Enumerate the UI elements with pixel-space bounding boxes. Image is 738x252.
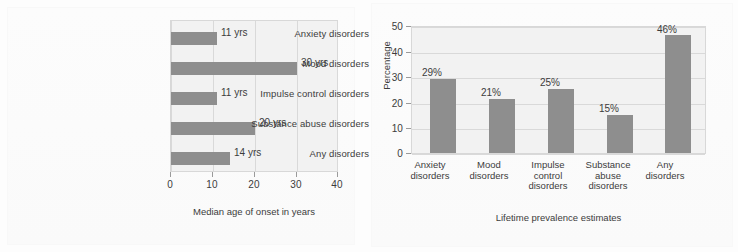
ytick-mark-10 [406, 128, 411, 129]
category-line-2: disorders [460, 171, 518, 182]
xtick-label-0: 0 [160, 179, 180, 190]
ytick-mark-20 [406, 103, 411, 104]
category-line-3: disorders [519, 181, 577, 192]
gridline-y-40 [412, 53, 705, 54]
ytick-mark-30 [406, 77, 411, 78]
xtick-mark-0 [170, 172, 171, 177]
category-label-substance-abuse-disorders: Substance abuse disorders [211, 118, 369, 129]
data-label-substance-abuse-disorders: 20 yrs [259, 117, 286, 128]
gridline-y-0 [412, 154, 705, 155]
category-label-mood-disorders: Mood disorders [211, 58, 369, 69]
bar-any-disorders[interactable] [665, 35, 691, 153]
xtick-mark-30 [296, 172, 297, 177]
category-line-1: Substance [577, 160, 639, 171]
data-label-impulse-control-disorders: 11 yrs [221, 87, 248, 98]
category-label-anxiety-disorders: Anxiety disorders [401, 160, 459, 181]
category-line-3: disorders [577, 181, 639, 192]
data-label-anxiety-disorders: 11 yrs [221, 27, 248, 38]
category-line-1: Mood [460, 160, 518, 171]
right-plot-area [411, 26, 706, 154]
category-line-1: Impulse [519, 160, 577, 171]
right-axis-caption: Lifetime prevalence estimates [411, 212, 706, 223]
data-label-impulse-control-disorders: 25% [532, 77, 568, 88]
xtick-label-10: 10 [202, 179, 222, 190]
right-y-axis-title: Percentage [381, 31, 392, 101]
category-line-2: disorders [401, 171, 459, 182]
median-age-of-onset-chart: Anxiety disorders Mood disorders Impulse… [0, 0, 369, 252]
data-label-mood-disorders: 21% [473, 87, 509, 98]
ytick-label-0: 0 [381, 148, 403, 159]
xtick-mark-40 [337, 172, 338, 177]
figure-container: Anxiety disorders Mood disorders Impulse… [0, 0, 738, 252]
bar-substance-abuse-disorders[interactable] [607, 115, 633, 153]
data-label-substance-abuse-disorders: 15% [591, 103, 627, 114]
bar-anxiety-disorders[interactable] [430, 79, 456, 153]
category-line-2: disorders [635, 171, 695, 182]
ytick-mark-40 [406, 52, 411, 53]
xtick-label-30: 30 [286, 179, 306, 190]
data-label-mood-disorders: 30 yrs [301, 57, 328, 68]
category-label-impulse-control-disorders: Impulse control disorders [519, 160, 577, 192]
category-line-1: Anxiety [401, 160, 459, 171]
ytick-mark-0 [406, 153, 411, 154]
bar-impulse-control-disorders[interactable] [548, 89, 574, 153]
category-label-any-disorders: Any disorders [635, 160, 695, 181]
category-label-substance-abuse-disorders: Substance abuse disorders [577, 160, 639, 192]
ytick-mark-50 [406, 26, 411, 27]
xtick-mark-20 [254, 172, 255, 177]
xtick-mark-10 [212, 172, 213, 177]
ytick-label-10: 10 [381, 123, 403, 134]
xtick-label-20: 20 [244, 179, 264, 190]
xtick-label-40: 40 [327, 179, 347, 190]
category-label-mood-disorders: Mood disorders [460, 160, 518, 181]
data-label-any-disorders: 14 yrs [234, 147, 261, 158]
data-label-any-disorders: 46% [649, 24, 685, 35]
category-line-1: Any [635, 160, 695, 171]
bar-mood-disorders[interactable] [489, 99, 515, 153]
left-axis-caption: Median age of onset in years [170, 206, 338, 217]
data-label-anxiety-disorders: 29% [414, 67, 450, 78]
lifetime-prevalence-chart: 50 40 30 20 10 0 Percentage 29% 21% 25% … [369, 0, 738, 252]
